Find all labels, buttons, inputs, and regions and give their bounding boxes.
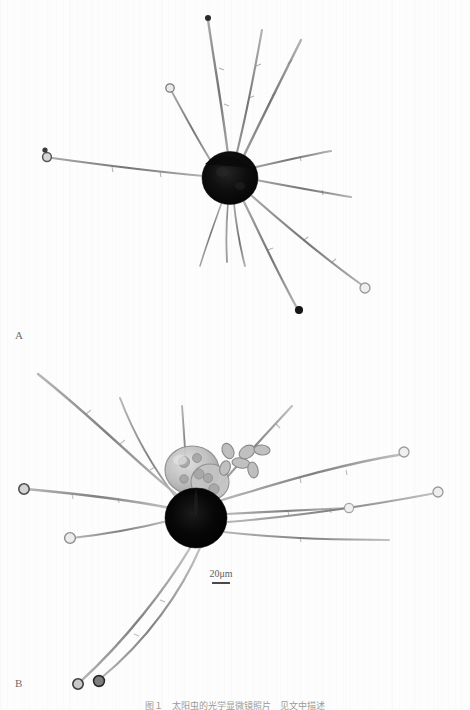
scale-bar-line <box>212 582 230 584</box>
micrograph-figure: A B 20μm 图１ 太阳虫的光学显微镜照片 见文中描述 <box>0 0 470 710</box>
panel-label-b: B <box>15 677 23 689</box>
panel-b-cell-body <box>165 488 227 548</box>
panel-a-cell-body <box>202 152 258 205</box>
panel-b-axopodia <box>19 374 443 689</box>
panel-b <box>0 350 470 690</box>
scale-bar: 20μm <box>193 568 249 584</box>
panel-label-a: A <box>15 329 23 341</box>
panel-b-free-cells <box>218 441 271 478</box>
panel-a <box>0 0 470 350</box>
scale-bar-label: 20μm <box>193 568 249 580</box>
figure-bottom-caption: 图１ 太阳虫的光学显微镜照片 见文中描述 <box>0 701 470 710</box>
